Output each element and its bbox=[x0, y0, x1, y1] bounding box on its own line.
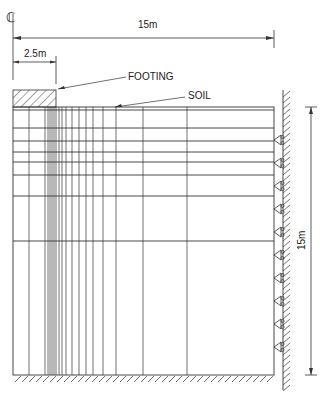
footing-width-label: 2.5m bbox=[24, 48, 46, 59]
mesh-diagram: ℂ 15m 2.5m FOOTING SOIL bbox=[0, 0, 324, 395]
footing-label: FOOTING bbox=[128, 71, 174, 82]
fixed-base-hatch bbox=[15, 376, 273, 382]
depth-label: 15m bbox=[296, 231, 307, 250]
total-width-label: 15m bbox=[138, 19, 157, 30]
soil-label: SOIL bbox=[188, 90, 211, 101]
total-width-dimension: 15m bbox=[13, 19, 274, 48]
svg-text:ℂ: ℂ bbox=[6, 10, 15, 25]
centerline-icon: ℂ bbox=[6, 10, 15, 80]
footing-block bbox=[13, 90, 56, 107]
depth-dimension: 15m bbox=[296, 107, 317, 375]
footing-width-dimension: 2.5m bbox=[13, 48, 56, 84]
